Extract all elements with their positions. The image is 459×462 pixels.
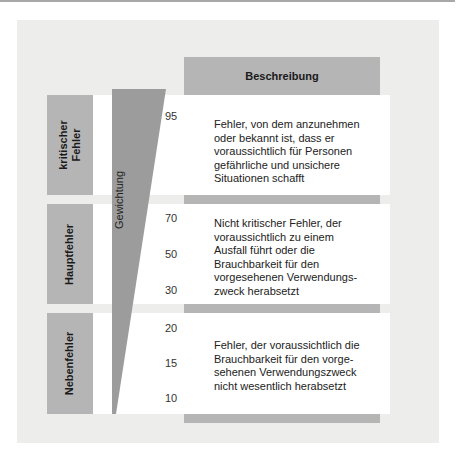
- tick-20: 20: [165, 322, 177, 334]
- weighting-axis-label: Gewichtung: [104, 150, 134, 250]
- tick-95: 95: [165, 110, 177, 122]
- tick-70: 70: [165, 212, 177, 224]
- description-critical: Fehler, von dem anzunehmen oder bekannt …: [214, 118, 360, 186]
- category-major-label: Hauptfehler: [64, 223, 77, 284]
- separator-3: [184, 414, 380, 423]
- description-header-label: Beschreibung: [245, 70, 318, 82]
- weighting-axis-label-text: Gewichtung: [113, 171, 125, 229]
- description-major: Nicht kritischer Fehler, der voraussicht…: [214, 217, 357, 298]
- description-header: Beschreibung: [184, 57, 380, 95]
- tick-30: 30: [165, 284, 177, 296]
- description-minor: Fehler, der voraussichtlich die Brauchba…: [214, 339, 360, 393]
- category-critical: kritischer Fehler: [47, 95, 93, 195]
- tick-15: 15: [165, 357, 177, 369]
- category-major: Hauptfehler: [47, 204, 93, 304]
- separator-2: [184, 304, 380, 313]
- weighting-wedge: [110, 89, 170, 419]
- top-rule: [0, 0, 455, 2]
- tick-10: 10: [165, 392, 177, 404]
- category-minor: Nebenfehler: [47, 313, 93, 414]
- category-critical-label: kritischer Fehler: [57, 120, 83, 170]
- separator-1: [184, 195, 380, 204]
- category-minor-label: Nebenfehler: [64, 332, 77, 396]
- tick-50: 50: [165, 248, 177, 260]
